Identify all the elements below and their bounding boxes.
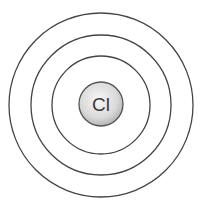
element-symbol: Cl [92, 94, 110, 115]
atom-diagram: Cl [0, 0, 204, 204]
